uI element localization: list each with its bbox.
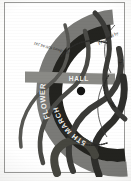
poster-canvas: FLOWER 5TH MARCH HALL Nottingham Present…: [3, 5, 129, 177]
poster-artwork: FLOWER 5TH MARCH HALL Nottingham Present…: [3, 5, 129, 177]
poster-vector: FLOWER 5TH MARCH HALL Nottingham Present…: [3, 5, 129, 177]
band-label-hall: HALL: [68, 75, 88, 82]
centre-dot: [76, 86, 84, 94]
screenshot-root: FLOWER 5TH MARCH HALL Nottingham Present…: [0, 0, 131, 181]
